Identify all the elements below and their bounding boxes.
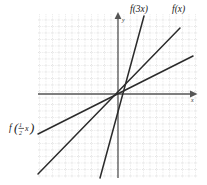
label-f-half-x-denominator: 2 bbox=[19, 130, 22, 136]
y-axis-label: y bbox=[121, 17, 125, 23]
label-f-half-x: f ( 1 2 x ) bbox=[9, 120, 34, 136]
label-f-half-x-variable: x bbox=[24, 124, 29, 133]
coordinate-plane-svg: y x f(3x) f(x) f ( 1 2 x ) bbox=[0, 0, 207, 185]
label-f-half-x-f: f bbox=[9, 123, 13, 133]
label-f-3x: f(3x) bbox=[130, 4, 148, 15]
label-f-x: f(x) bbox=[172, 4, 185, 15]
label-f-half-x-numerator: 1 bbox=[19, 122, 22, 128]
graph-figure: y x f(3x) f(x) f ( 1 2 x ) bbox=[0, 0, 207, 185]
x-axis-label: x bbox=[190, 97, 194, 103]
label-f-half-x-paren-close: ) bbox=[29, 120, 34, 135]
